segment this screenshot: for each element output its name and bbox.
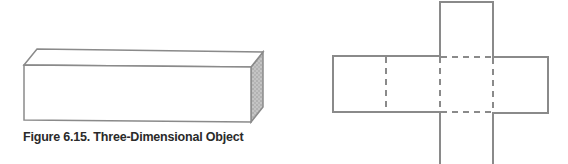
prism-net [333, 2, 548, 164]
figure-caption: Figure 6.15. Three-Dimensional Object [23, 130, 243, 144]
three-dimensional-object [24, 49, 263, 122]
prism-top-face [24, 49, 263, 67]
prism-front-face [24, 65, 251, 122]
